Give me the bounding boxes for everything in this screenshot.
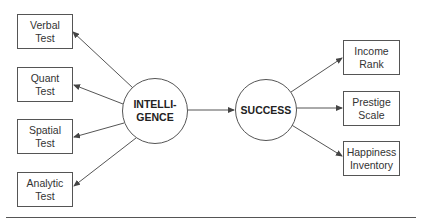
indicator-label: Income <box>354 45 388 58</box>
indicator-label: Analytic <box>27 177 64 190</box>
indicator-label: Test <box>35 32 54 45</box>
bottom-divider <box>6 217 416 218</box>
indicator-label: Test <box>35 85 54 98</box>
indicator-label: Verbal <box>30 19 60 32</box>
arrow-intelligence-quant <box>74 85 123 104</box>
indicator-label: Test <box>35 190 54 203</box>
indicator-label: Prestige <box>352 96 391 109</box>
indicator-label: Rank <box>359 58 384 71</box>
latent-label: GENCE <box>136 111 173 124</box>
arrow-intelligence-spatial <box>74 123 124 137</box>
indicator-spatial-test: Spatial Test <box>17 119 73 154</box>
latent-success: SUCCESS <box>235 79 297 141</box>
indicator-label: Happiness <box>347 146 397 159</box>
arrow-intelligence-verbal <box>73 32 133 88</box>
indicator-prestige-scale: Prestige Scale <box>343 91 400 126</box>
arrow-success-happiness <box>290 124 342 156</box>
indicator-label: Inventory <box>350 159 393 172</box>
indicator-label: Quant <box>31 72 60 85</box>
indicator-label: Spatial <box>29 124 61 137</box>
indicator-analytic-test: Analytic Test <box>17 172 73 207</box>
indicator-income-rank: Income Rank <box>343 40 400 75</box>
arrow-success-income <box>291 58 342 92</box>
indicator-quant-test: Quant Test <box>17 67 73 102</box>
indicator-label: Test <box>35 137 54 150</box>
indicator-happiness-inventory: Happiness Inventory <box>343 141 400 176</box>
latent-intelligence: INTELLI- GENCE <box>122 78 188 144</box>
latent-label: SUCCESS <box>241 104 292 117</box>
latent-label: INTELLI- <box>133 98 176 111</box>
arrow-intelligence-analytic <box>74 138 136 186</box>
indicator-verbal-test: Verbal Test <box>17 14 73 49</box>
indicator-label: Scale <box>358 109 384 122</box>
